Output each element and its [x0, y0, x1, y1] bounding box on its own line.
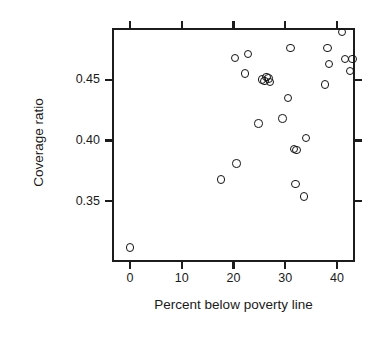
x-axis-tick [284, 262, 286, 269]
x-axis-tick-label: 10 [162, 271, 202, 286]
x-axis-title: Percent below poverty line [112, 297, 355, 312]
x-axis-tick-label: 0 [110, 271, 150, 286]
y-axis-tick [105, 200, 112, 202]
x-axis-tick-top [284, 21, 286, 28]
x-axis-tick [181, 262, 183, 269]
x-axis-tick [232, 262, 234, 269]
y-axis-title: Coverage ratio [31, 43, 46, 243]
y-axis-tick [105, 79, 112, 81]
x-axis-tick-label: 40 [317, 271, 357, 286]
x-axis-tick-top [232, 21, 234, 28]
y-axis-tick-right [355, 79, 362, 81]
y-axis-tick-label: 0.35 [50, 194, 100, 209]
x-axis-tick-label: 20 [214, 271, 254, 286]
y-axis-tick [105, 139, 112, 141]
y-axis-tick-right [355, 200, 362, 202]
x-axis-tick-label: 30 [265, 271, 305, 286]
y-axis-tick-label: 0.40 [50, 133, 100, 148]
y-axis-tick-label: 0.45 [50, 72, 100, 87]
x-axis-tick-top [129, 21, 131, 28]
x-axis-tick-top [181, 21, 183, 28]
plot-frame [112, 28, 355, 262]
x-axis-tick [336, 262, 338, 269]
x-axis-tick [129, 262, 131, 269]
y-axis-tick-right [355, 139, 362, 141]
scatter-plot-figure: 0102030400.350.400.45 Percent below pove… [0, 0, 386, 339]
x-axis-tick-top [336, 21, 338, 28]
